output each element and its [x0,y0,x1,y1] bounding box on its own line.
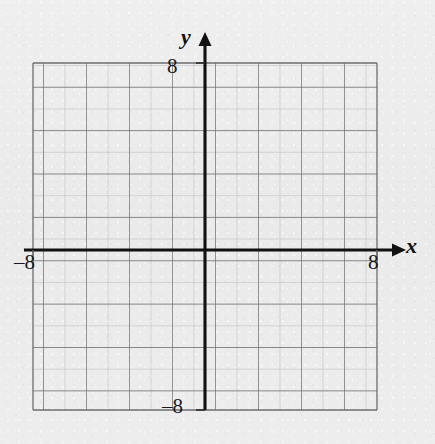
x-axis-name-label: x [406,235,417,257]
x-axis-max-tick-label: 8 [368,252,379,273]
x-axis-min-tick-label: –8 [14,252,35,273]
y-axis-max-tick-label: 8 [167,56,178,77]
coordinate-grid-svg [0,0,435,444]
y-axis-name-label: y [181,26,191,48]
coordinate-plane: 8 –8 –8 8 y x [0,0,435,444]
y-axis-min-tick-label: –8 [162,396,183,417]
